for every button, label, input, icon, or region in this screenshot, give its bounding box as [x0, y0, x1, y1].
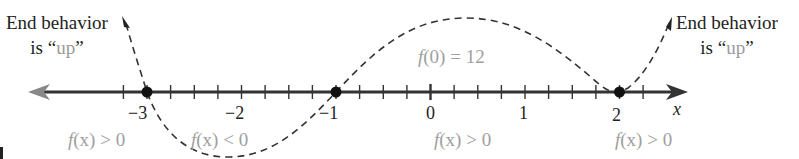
- axis-variable-label: x: [673, 100, 681, 118]
- tick-label-2: 2: [612, 106, 621, 124]
- tick-label-neg2: −2: [225, 104, 244, 122]
- right-end-behavior-label: End behavior is “up”: [676, 13, 778, 57]
- region-label-3: f(x) > 0: [434, 130, 491, 149]
- tick-label-0: 0: [426, 104, 435, 122]
- sign-chart-diagram: End behavior is “up” End behavior is “up…: [0, 0, 799, 159]
- y-intercept-label: f(0) = 12: [418, 47, 485, 66]
- zero-dot-neg3: [142, 87, 153, 98]
- region-label-2: f(x) < 0: [191, 130, 248, 149]
- tick-label-neg1: −1: [319, 104, 338, 122]
- left-end-line2: is “up”: [6, 38, 108, 57]
- tick-label-1: 1: [519, 104, 528, 122]
- zero-dot-2: [614, 87, 625, 98]
- left-end-arrow-icon: [122, 16, 130, 28]
- number-line: [28, 84, 688, 100]
- zero-dot-neg1: [331, 87, 342, 98]
- region-label-1: f(x) > 0: [68, 130, 125, 149]
- left-end-line1: End behavior: [6, 13, 108, 32]
- tick-label-neg3: −3: [128, 104, 147, 122]
- right-end-line2: is “up”: [676, 38, 778, 57]
- left-end-behavior-label: End behavior is “up”: [6, 13, 108, 57]
- region-label-4: f(x) > 0: [615, 130, 672, 149]
- right-end-line1: End behavior: [676, 13, 778, 32]
